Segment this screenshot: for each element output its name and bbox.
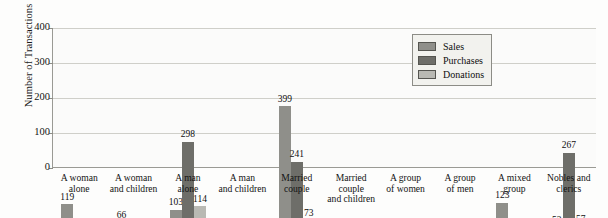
y-tick-label: 0 — [10, 161, 50, 172]
bar-value-label: 119 — [60, 193, 74, 203]
bar-chart-figure: Number of Transactions 0100200300400 119… — [0, 0, 608, 218]
bar-sales — [279, 106, 291, 218]
legend-swatch-icon — [418, 70, 436, 79]
x-tick-label: A groupof women — [378, 173, 432, 194]
x-tick-label: A manalone — [161, 173, 215, 194]
bar-sales — [170, 210, 182, 218]
legend-swatch-icon — [418, 56, 436, 65]
bar-sales — [496, 203, 508, 218]
bar-value-label: 298 — [181, 130, 195, 140]
x-tick-label: A mixedgroup — [487, 173, 541, 194]
x-tick-label: Marriedcoupleand children — [324, 173, 378, 205]
legend-label: Sales — [443, 41, 464, 52]
bar-value-label: 52 — [552, 216, 562, 218]
chart-legend: SalesPurchasesDonations — [412, 34, 492, 86]
x-tick-label: A manand children — [215, 173, 269, 194]
bar-sales — [61, 204, 73, 218]
x-tick-label: A groupof men — [433, 173, 487, 194]
bar-value-label: 66 — [117, 211, 127, 218]
x-tick-label: A womanalone — [52, 173, 106, 194]
bar-value-label: 241 — [290, 150, 304, 160]
y-tick-label: 300 — [10, 56, 50, 67]
legend-label: Donations — [443, 69, 484, 80]
x-tick-label: Marriedcouple — [270, 173, 324, 194]
bar-value-label: 103 — [169, 198, 183, 208]
bar-value-label: 114 — [193, 195, 207, 205]
bar-value-label: 73 — [304, 209, 314, 218]
legend-swatch-icon — [418, 42, 436, 51]
legend-item-sales: Sales — [418, 39, 484, 53]
y-tick-label: 400 — [10, 21, 50, 32]
legend-item-purchases: Purchases — [418, 53, 484, 67]
y-tick-label: 100 — [10, 126, 50, 137]
y-tick-label: 200 — [10, 91, 50, 102]
bar-value-label: 57 — [576, 215, 586, 218]
x-tick-label: Nobles andclerics — [542, 173, 596, 194]
bar-value-label: 399 — [278, 95, 292, 105]
legend-item-donations: Donations — [418, 67, 484, 81]
bar-value-label: 267 — [562, 141, 576, 151]
bar-donations — [194, 206, 206, 218]
legend-label: Purchases — [443, 55, 483, 66]
x-tick-label: A womanand children — [106, 173, 160, 194]
